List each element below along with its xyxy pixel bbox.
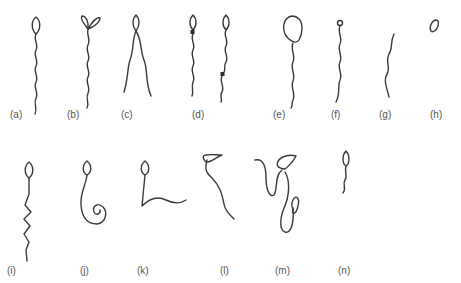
label-k: (k)	[137, 266, 149, 276]
label-f: (f)	[331, 110, 340, 120]
sperm-c	[124, 15, 151, 96]
label-m: (m)	[275, 266, 290, 276]
sperm-morphology-diagram	[0, 0, 461, 283]
label-d: (d)	[192, 110, 204, 120]
label-i: (i)	[7, 266, 16, 276]
sperm-d	[190, 15, 229, 102]
sperm-k	[141, 161, 186, 206]
sperm-b	[81, 16, 100, 108]
sperm-j	[81, 161, 106, 224]
label-h: (h)	[430, 110, 442, 120]
label-c: (c)	[121, 110, 133, 120]
label-j: (j)	[80, 266, 89, 276]
sperm-n	[343, 151, 349, 193]
label-g: (g)	[379, 110, 391, 120]
sperm-m	[255, 155, 299, 232]
label-n: (n)	[338, 266, 350, 276]
label-l: (l)	[220, 266, 229, 276]
sperm-g	[385, 34, 394, 97]
label-e: (e)	[273, 110, 285, 120]
label-b: (b)	[67, 110, 79, 120]
sperm-l	[203, 155, 234, 219]
sperm-i	[24, 162, 33, 261]
sperm-e	[284, 16, 302, 108]
sperm-f	[336, 21, 343, 103]
sperm-h	[430, 20, 438, 32]
sperm-a	[32, 17, 40, 114]
label-a: (a)	[10, 110, 22, 120]
